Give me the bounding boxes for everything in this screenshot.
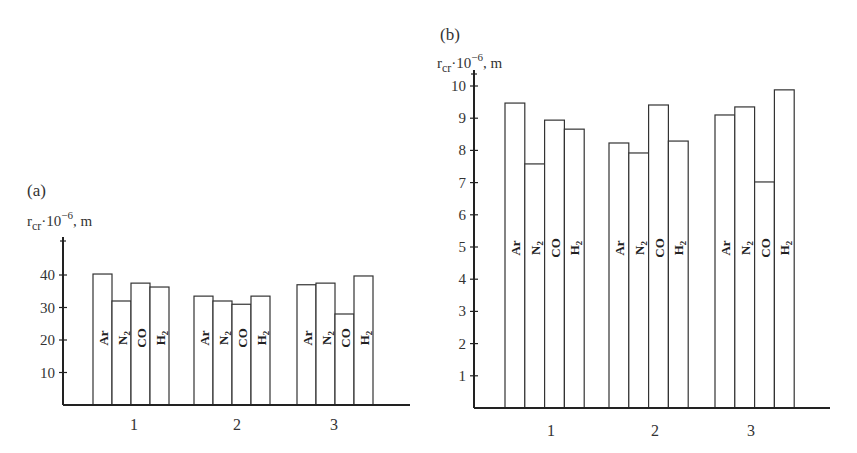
bar-co-2 (232, 304, 251, 405)
bar-series-label: Ar (300, 330, 315, 345)
chart-panel-a: (a)rcr·10−6, mArN2COH2ArN2COH2ArN2COH210… (27, 181, 410, 433)
bar-co-3 (755, 182, 775, 408)
bar-n2-2 (213, 301, 232, 405)
bar-series-label: CO (652, 238, 667, 258)
y-tick-label: 7 (459, 175, 467, 191)
y-tick-label: 4 (459, 271, 467, 287)
bar-n2-2 (629, 153, 649, 408)
bar-series-label: CO (758, 238, 773, 258)
y-tick-label: 5 (459, 239, 467, 255)
y-tick-label: 8 (459, 142, 467, 158)
y-axis-title: rcr·10−6, m (27, 209, 93, 233)
chart-panel-b: (b)rcr·10−6, mArN2COH2ArN2COH2ArN2COH212… (437, 25, 830, 439)
x-category-label: 3 (330, 416, 338, 433)
bar-n2-3 (735, 107, 755, 408)
bar-series-label: Ar (197, 330, 212, 345)
y-tick-label: 1 (459, 368, 467, 384)
x-category-label: 1 (130, 416, 138, 433)
y-tick-label: 10 (40, 365, 55, 381)
bar-co-3 (335, 314, 354, 405)
y-tick-label: 20 (40, 332, 55, 348)
x-category-label: 1 (547, 422, 555, 439)
y-axis-title: rcr·10−6, m (437, 51, 503, 75)
y-tick-label: 2 (459, 336, 467, 352)
bars: ArN2COH2ArN2COH2ArN2COH2 (505, 90, 794, 408)
bar-h2-2 (251, 296, 270, 405)
figure: (a)rcr·10−6, mArN2COH2ArN2COH2ArN2COH210… (0, 0, 857, 453)
bar-ar-3 (715, 115, 735, 408)
bar-series-label: CO (235, 328, 250, 348)
x-category-label: 3 (747, 422, 755, 439)
y-tick-label: 40 (40, 267, 55, 283)
bar-series-label: Ar (508, 240, 523, 255)
bar-ar-2 (194, 296, 213, 405)
bar-n2-1 (525, 164, 545, 408)
bar-series-label: CO (548, 238, 563, 258)
bar-series-label: Ar (96, 330, 111, 345)
bar-series-label: Ar (718, 240, 733, 255)
bars: ArN2COH2ArN2COH2ArN2COH2 (93, 274, 374, 405)
y-tick-label: 3 (459, 303, 467, 319)
bar-h2-2 (668, 141, 688, 408)
bar-n2-1 (112, 301, 131, 405)
y-tick-label: 6 (459, 207, 467, 223)
bar-series-label: CO (338, 328, 353, 348)
bar-h2-1 (564, 129, 584, 408)
y-tick-label: 9 (459, 110, 467, 126)
bar-co-1 (545, 120, 565, 408)
x-category-label: 2 (233, 416, 241, 433)
y-tick-label: 30 (40, 300, 55, 316)
bar-ar-2 (609, 143, 629, 408)
bar-series-label: Ar (612, 240, 627, 255)
panel-label: (a) (27, 181, 46, 200)
x-category-label: 2 (651, 422, 659, 439)
bar-series-label: CO (134, 328, 149, 348)
panel-label: (b) (440, 25, 460, 44)
y-tick-label: 10 (451, 78, 466, 94)
